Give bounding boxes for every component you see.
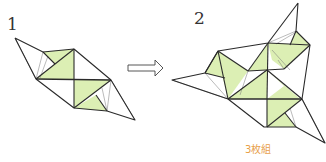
figure-1-model: [15, 38, 135, 120]
figure-2-model: [172, 3, 325, 143]
right-arrow-icon: [128, 60, 163, 76]
caption-three-sheet-set: 3枚組: [245, 141, 271, 156]
origami-diagram: [0, 0, 326, 162]
